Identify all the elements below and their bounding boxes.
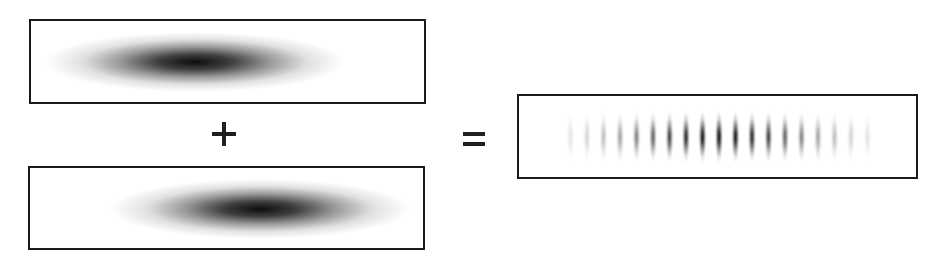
fringe [797, 111, 806, 163]
fringe [715, 111, 724, 163]
fringe [649, 111, 658, 163]
fringe [781, 111, 790, 163]
fringe [814, 111, 823, 163]
fringe [583, 111, 592, 163]
equals-operator: = [463, 132, 485, 147]
interference-pattern-panel: Interference fringes [517, 94, 918, 179]
fringe [698, 111, 707, 163]
fringe [632, 111, 641, 163]
fringe [764, 111, 773, 163]
fringe [566, 111, 575, 163]
equals-bottom-bar [463, 142, 485, 146]
equals-top-bar [463, 132, 485, 136]
fringe [863, 111, 872, 163]
fringe [731, 111, 740, 163]
fringe [748, 111, 757, 163]
fringe [665, 111, 674, 163]
fringe [847, 111, 856, 163]
fringe [830, 111, 839, 163]
fringe [599, 111, 608, 163]
plus-operator: + [212, 122, 236, 146]
fringe [616, 111, 625, 163]
plus-vertical-bar [222, 122, 226, 146]
gaussian-blob-1 [31, 21, 424, 102]
gaussian-packet-panel-1: Gaussian packet 1 [29, 19, 426, 104]
gaussian-blob-2 [30, 168, 423, 248]
gaussian-packet-panel-2: Gaussian packet 2 [28, 166, 425, 250]
fringe [682, 111, 691, 163]
interference-fringes [519, 96, 916, 177]
